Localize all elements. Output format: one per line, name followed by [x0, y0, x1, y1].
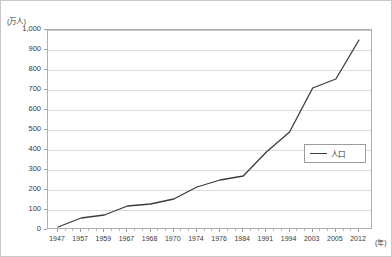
x-axis-tick-label: 1970: [165, 235, 181, 243]
x-axis-tick-label: 1976: [211, 235, 227, 243]
y-axis-tick-mark: [44, 229, 47, 230]
y-axis-tick-label: 100: [3, 205, 41, 213]
y-axis-tick-label: 800: [3, 65, 41, 73]
x-axis-tick-label: 1984: [234, 235, 250, 243]
chart-legend: 人口: [304, 144, 366, 163]
x-axis-tick-label: 1968: [142, 235, 158, 243]
x-axis-unit-label: (年): [375, 239, 387, 247]
x-axis-tick-label: 1991: [258, 235, 274, 243]
y-axis-unit-label: (万人): [7, 15, 26, 26]
x-axis-tick-label: 1967: [119, 235, 135, 243]
plot-area: [47, 29, 372, 229]
x-axis-tick-label: 2003: [304, 235, 320, 243]
x-axis-tick-label: 1957: [72, 235, 88, 243]
y-axis-tick-label: 500: [3, 125, 41, 133]
series-line-population: [48, 30, 373, 230]
y-axis-tick-label: 0: [3, 225, 41, 233]
y-axis-tick-label: 400: [3, 145, 41, 153]
x-axis-tick-label: 1947: [49, 235, 65, 243]
y-axis-tick-label: 900: [3, 45, 41, 53]
x-axis-tick-label: 1994: [281, 235, 297, 243]
x-axis-tick-label: 1974: [188, 235, 204, 243]
legend-label-population: 人口: [331, 148, 345, 159]
y-axis-tick-label: 300: [3, 165, 41, 173]
population-line-chart: (万人) 1,0009008007006005004003002001000 1…: [0, 0, 392, 257]
x-axis-tick-label: 2005: [327, 235, 343, 243]
y-axis-tick-label: 200: [3, 185, 41, 193]
y-axis-tick-label: 700: [3, 85, 41, 93]
y-axis-tick-label: 600: [3, 105, 41, 113]
legend-swatch-population: [310, 153, 327, 154]
y-axis-tick-label: 1,000: [3, 25, 41, 33]
x-axis-tick-label: 2012: [350, 235, 366, 243]
x-axis-tick-label: 1959: [96, 235, 112, 243]
